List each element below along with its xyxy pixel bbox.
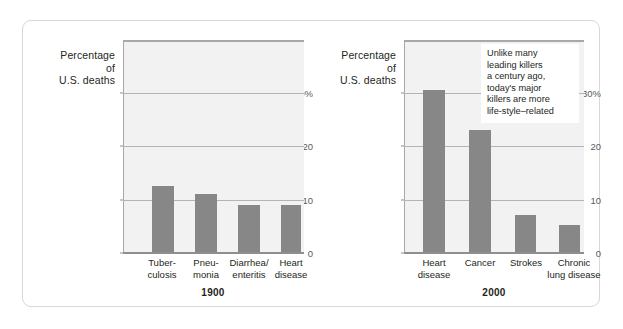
bar-tuberculosis — [152, 186, 174, 252]
y-axis-caption-line-3: U.S. deaths — [23, 74, 115, 87]
y-axis-line — [404, 42, 405, 254]
x-label-line-2: lung disease — [519, 269, 623, 281]
annotation-line-6: life-style–related — [487, 106, 573, 118]
gridline-20 — [123, 146, 304, 147]
bar-diarrhea-enteritis — [238, 205, 260, 252]
plot-area-2000: Unlike many leading killers a century ag… — [404, 40, 584, 254]
x-label-line-2: disease — [399, 269, 469, 281]
annotation-line-5: killers are more — [487, 94, 573, 106]
gridline-30 — [123, 93, 304, 94]
bar-strokes — [515, 215, 536, 252]
plot-area-1900 — [123, 40, 304, 254]
annotation-callout: Unlike many leading killers a century ag… — [481, 44, 579, 123]
y-axis-line — [123, 42, 124, 254]
bar-chronic-lung-disease — [559, 225, 580, 252]
period-label-2000: 2000 — [434, 287, 554, 298]
period-label-1900: 1900 — [153, 287, 273, 298]
figure-frame: Percentage of U.S. deaths 30% 20 10 0 — [22, 20, 600, 307]
y-axis-caption-line-1: Percentage — [23, 49, 115, 62]
bar-heart-disease — [281, 205, 301, 252]
annotation-line-3: a century ago, — [487, 71, 573, 83]
annotation-line-1: Unlike many — [487, 48, 573, 60]
x-axis-baseline — [123, 252, 304, 254]
x-label-chronic-lung-disease: Chronic lung disease — [519, 257, 623, 280]
bar-pneumonia — [195, 194, 217, 252]
y-axis-caption-right: Percentage of U.S. deaths — [304, 49, 396, 87]
annotation-line-4: today's major — [487, 83, 573, 95]
x-axis-baseline — [404, 252, 584, 254]
annotation-line-2: leading killers — [487, 60, 573, 72]
y-axis-caption-line-2: of — [304, 62, 396, 75]
bar-heart-disease — [423, 90, 445, 252]
y-axis-caption-left: Percentage of U.S. deaths — [23, 49, 115, 87]
y-axis-caption-line-2: of — [23, 62, 115, 75]
chart-panel-1900: Percentage of U.S. deaths 30% 20 10 0 — [23, 21, 313, 308]
y-axis-caption-line-3: U.S. deaths — [304, 74, 396, 87]
x-label-line-1: Chronic — [519, 257, 623, 269]
y-axis-caption-line-1: Percentage — [304, 49, 396, 62]
bar-cancer — [469, 130, 491, 252]
chart-panel-2000: Percentage of U.S. deaths 30% 20 10 0 — [304, 21, 601, 308]
